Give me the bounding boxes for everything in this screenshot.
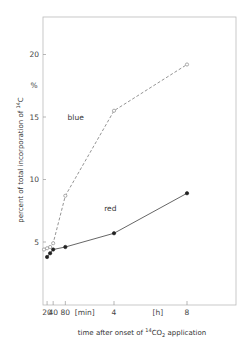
y-tick-label: 5 [34,238,39,247]
x-tick-label: 80 [61,308,71,317]
x-unit-label: [h] [152,308,163,317]
y-unit-label: % [30,81,37,90]
series-line [44,65,187,250]
data-point [185,192,188,195]
y-axis: 5101520 [29,50,46,247]
x-unit-label: [min] [75,308,95,317]
series-group: bluered [42,63,188,259]
data-point [45,255,48,258]
data-point [52,242,55,245]
data-point [49,245,52,248]
data-point [51,248,54,251]
data-point [112,232,115,235]
series-label-blue: blue [68,113,85,122]
series-red: red [45,192,188,259]
data-point [112,109,115,112]
y-tick-label: 15 [29,113,39,122]
x-axis-title: time after onset of 14CO2 application [78,327,206,338]
y-tick-label: 20 [29,50,39,59]
x-axis: 20408048[min][h] [42,301,189,317]
y-tick-label: 10 [29,175,39,184]
data-point [64,194,67,197]
x-tick-label: 40 [48,308,58,317]
data-point [48,252,51,255]
x-tick-label: 8 [185,308,190,317]
data-point [185,63,188,66]
y-axis-title: percent of total incorporation of 14C [15,97,25,223]
series-label-red: red [104,204,117,213]
line-chart: 5101520 20408048[min][h] bluered % perce… [0,0,249,355]
plot-frame [43,17,236,305]
series-line [47,193,187,257]
data-point [45,247,48,250]
data-point [42,248,45,251]
x-tick-label: 4 [112,308,117,317]
series-blue: blue [42,63,188,251]
data-point [64,245,67,248]
